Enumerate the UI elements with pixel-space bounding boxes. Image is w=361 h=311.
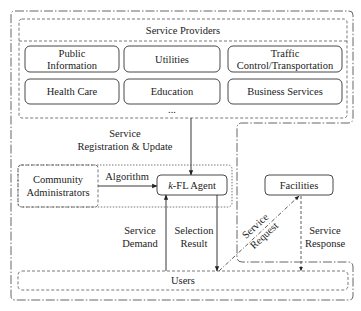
svg-text:Utilities: Utilities <box>155 54 189 65</box>
kfl-agent: k-FL Agent <box>157 175 227 195</box>
svg-text:Health Care: Health Care <box>47 86 98 97</box>
svg-text:Result: Result <box>181 238 208 249</box>
service-response-label: Service Response <box>305 225 346 249</box>
service-public-information: Public Information <box>25 46 119 72</box>
selection-result-label: Selection Result <box>174 225 214 249</box>
more-services-ellipsis: ... <box>168 104 176 115</box>
svg-text:Administrators: Administrators <box>27 187 90 198</box>
svg-text:Registration & Update: Registration & Update <box>77 141 172 152</box>
svg-text:Users: Users <box>171 275 195 286</box>
service-education: Education <box>124 79 220 104</box>
svg-text:Business Services: Business Services <box>247 86 323 97</box>
svg-text:Public: Public <box>59 48 86 59</box>
svg-text:Education: Education <box>151 86 194 97</box>
service-business-services: Business Services <box>228 79 342 104</box>
svg-text:Selection: Selection <box>174 225 214 236</box>
svg-text:Service: Service <box>309 225 341 236</box>
svg-text:Facilities: Facilities <box>280 180 319 191</box>
facilities: Facilities <box>265 175 333 195</box>
service-providers-title: Service Providers <box>146 25 220 36</box>
algorithm-label: Algorithm <box>105 171 149 182</box>
svg-text:Service: Service <box>109 128 141 139</box>
service-health-care: Health Care <box>25 79 119 104</box>
service-utilities: Utilities <box>124 46 220 72</box>
kfl-architecture-diagram: Service Providers Public Information Uti… <box>0 0 361 311</box>
users: Users <box>18 271 348 290</box>
svg-text:Information: Information <box>47 60 98 71</box>
svg-text:Service: Service <box>124 225 156 236</box>
svg-text:Traffic: Traffic <box>271 48 300 59</box>
service-providers-group: Service Providers Public Information Uti… <box>19 19 347 118</box>
svg-text:k-FL Agent: k-FL Agent <box>168 180 216 191</box>
svg-text:Community: Community <box>33 174 84 185</box>
svg-text:Demand: Demand <box>122 238 158 249</box>
community-administrators: Community Administrators <box>18 165 98 207</box>
registration-label: Service Registration & Update <box>77 128 172 152</box>
service-traffic-control-transportation: Traffic Control/Transportation <box>228 46 342 72</box>
service-request-label: Service Request <box>239 210 280 251</box>
svg-text:Response: Response <box>305 238 346 249</box>
svg-text:Control/Transportation: Control/Transportation <box>237 60 334 71</box>
service-demand-label: Service Demand <box>122 225 158 249</box>
